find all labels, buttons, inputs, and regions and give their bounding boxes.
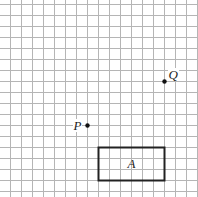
rectangle-a-label: A — [127, 157, 137, 170]
grid-diagram — [0, 0, 198, 197]
point-p-label: P — [73, 119, 83, 132]
point-q-dot — [162, 79, 166, 83]
point-q-label: Q — [168, 68, 179, 81]
point-p-dot — [85, 123, 89, 127]
